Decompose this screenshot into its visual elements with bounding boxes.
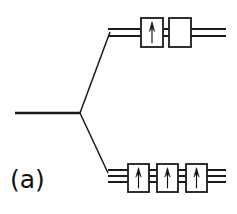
orbital-box bbox=[169, 18, 191, 47]
figure-panel: (a) bbox=[0, 0, 237, 214]
orbital-box bbox=[128, 164, 149, 192]
lower-energy-level bbox=[108, 164, 226, 192]
panel-label: (a) bbox=[10, 167, 45, 192]
orbital-box-outline bbox=[169, 18, 191, 47]
connector-up bbox=[80, 32, 110, 113]
orbital-box bbox=[157, 164, 178, 192]
orbital-box bbox=[186, 164, 207, 192]
orbital-box bbox=[141, 18, 163, 47]
connector-group bbox=[80, 32, 110, 173]
connector-down bbox=[80, 113, 108, 173]
split-levels-group bbox=[108, 18, 226, 192]
upper-energy-level bbox=[108, 18, 226, 47]
